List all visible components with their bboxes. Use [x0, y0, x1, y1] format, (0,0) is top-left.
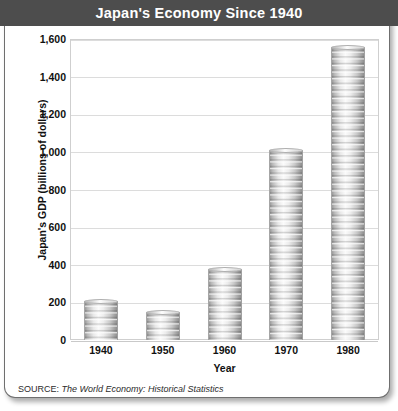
- bar-slot: [256, 39, 316, 340]
- bar-slot: [195, 39, 255, 340]
- source-citation: The World Economy: Historical Statistics: [62, 384, 224, 394]
- source-label: SOURCE:: [18, 384, 59, 394]
- y-axis-title: Japan's GDP (billions of dollars): [36, 70, 48, 290]
- chart-area: Japan's GDP (billions of dollars) 020040…: [4, 26, 390, 398]
- x-tick-label: 1950: [128, 344, 198, 356]
- x-tick-label: 1960: [190, 344, 260, 356]
- bar-series: [70, 39, 379, 340]
- bar-1980: [331, 47, 365, 340]
- x-tick-label: 1980: [313, 344, 383, 356]
- chart-title-band: Japan's Economy Since 1940: [0, 0, 398, 26]
- y-tick-label: 200: [10, 296, 66, 308]
- chart-figure: Japan's Economy Since 1940 Japan's GDP (…: [0, 0, 398, 411]
- x-tick-label: 1970: [251, 344, 321, 356]
- bar-slot: [318, 39, 378, 340]
- bar-1950: [146, 312, 180, 340]
- bar-1960: [208, 269, 242, 340]
- bar-slot: [71, 39, 131, 340]
- y-tick-label: 600: [10, 221, 66, 233]
- x-tick-label: 1940: [66, 344, 136, 356]
- chart-title: Japan's Economy Since 1940: [96, 5, 303, 21]
- x-axis-title: Year: [70, 362, 379, 374]
- bar-1940: [84, 301, 118, 340]
- gridline: [71, 341, 378, 342]
- bar-1970: [269, 150, 303, 340]
- y-tick-label: 1,000: [10, 146, 66, 158]
- y-tick-label: 400: [10, 259, 66, 271]
- y-tick-label: 0: [10, 334, 66, 346]
- y-tick-label: 800: [10, 184, 66, 196]
- source-note: SOURCE: The World Economy: Historical St…: [18, 384, 224, 394]
- y-tick-label: 1,600: [10, 33, 66, 45]
- bar-slot: [133, 39, 193, 340]
- y-tick-label: 1,200: [10, 108, 66, 120]
- y-tick-label: 1,400: [10, 71, 66, 83]
